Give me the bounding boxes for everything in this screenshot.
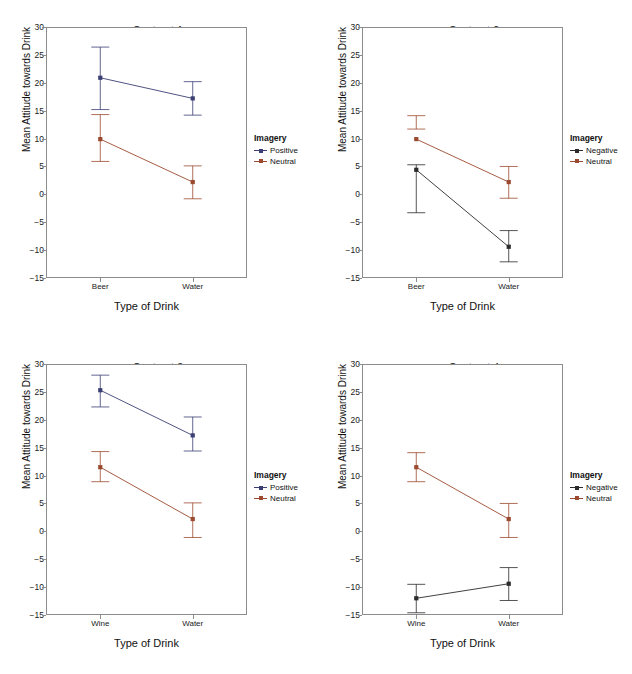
legend-marker-icon — [254, 147, 267, 154]
legend: ImageryNegativeNeutral — [570, 470, 618, 503]
legend-item[interactable]: Neutral — [254, 157, 298, 166]
y-tick-label: 0 — [330, 189, 360, 199]
data-point-marker — [507, 180, 511, 184]
data-point-marker — [98, 465, 102, 469]
series-line — [416, 170, 508, 247]
x-tick-mark — [509, 615, 510, 619]
figure-grid: Contrast 1Mean Attitude towards Drink302… — [0, 0, 632, 674]
y-tick-label: −15 — [330, 273, 360, 283]
x-tick-label: Beer — [408, 282, 425, 291]
y-axis-label: Mean Attitude towards Drink — [21, 10, 32, 170]
data-point-marker — [191, 180, 195, 184]
legend-item-label: Negative — [586, 146, 618, 155]
series-line — [100, 78, 192, 99]
series-layer — [46, 27, 247, 278]
series-line — [100, 139, 192, 182]
y-tick-label: −10 — [14, 245, 44, 255]
y-tick-label: 25 — [330, 50, 360, 60]
legend-item-label: Positive — [270, 483, 298, 492]
legend-marker-icon — [570, 147, 583, 154]
legend-item[interactable]: Negative — [570, 146, 618, 155]
series-line — [100, 390, 192, 435]
data-point-marker — [191, 96, 195, 100]
x-tick-mark — [416, 278, 417, 282]
legend-item-label: Neutral — [270, 157, 296, 166]
x-axis-label: Type of Drink — [46, 300, 247, 312]
y-tick-label: 5 — [330, 161, 360, 171]
legend-item[interactable]: Neutral — [570, 157, 618, 166]
chart-panel: Contrast 1Mean Attitude towards Drink302… — [0, 0, 316, 337]
x-tick-label: Beer — [92, 282, 109, 291]
legend: ImageryNegativeNeutral — [570, 133, 618, 166]
y-tick-label: 30 — [330, 359, 360, 369]
legend-marker-icon — [254, 158, 267, 165]
y-tick-mark — [42, 615, 46, 616]
series-layer — [362, 27, 563, 278]
y-tick-label: −15 — [14, 610, 44, 620]
y-tick-label: 20 — [14, 415, 44, 425]
y-tick-mark — [358, 278, 362, 279]
x-axis-label: Type of Drink — [362, 300, 563, 312]
legend-item[interactable]: Positive — [254, 146, 298, 155]
y-tick-label: 20 — [330, 78, 360, 88]
y-tick-label: 15 — [330, 106, 360, 116]
y-tick-label: 25 — [330, 387, 360, 397]
legend-item-label: Positive — [270, 146, 298, 155]
x-axis-label: Type of Drink — [362, 637, 563, 649]
series-layer — [46, 364, 247, 615]
data-point-marker — [414, 596, 418, 600]
x-tick-label: Water — [498, 619, 519, 628]
y-tick-mark — [358, 615, 362, 616]
chart-panel: Contrast 4Mean Attitude towards Drink302… — [316, 337, 632, 674]
data-point-marker — [507, 517, 511, 521]
y-tick-label: 10 — [14, 471, 44, 481]
y-axis-label: Mean Attitude towards Drink — [21, 347, 32, 507]
x-tick-mark — [193, 278, 194, 282]
y-tick-label: 25 — [14, 50, 44, 60]
x-tick-mark — [416, 615, 417, 619]
chart-panel: Contrast 3Mean Attitude towards Drink302… — [0, 337, 316, 674]
y-tick-label: −5 — [330, 217, 360, 227]
y-tick-label: 10 — [330, 134, 360, 144]
legend-title: Imagery — [570, 133, 618, 143]
y-tick-label: −10 — [330, 245, 360, 255]
legend-marker-icon — [254, 484, 267, 491]
legend-item-label: Neutral — [586, 157, 612, 166]
legend-item[interactable]: Positive — [254, 483, 298, 492]
y-tick-label: 0 — [14, 526, 44, 536]
data-point-marker — [414, 465, 418, 469]
x-tick-mark — [100, 615, 101, 619]
legend-item[interactable]: Neutral — [570, 494, 618, 503]
data-point-marker — [507, 245, 511, 249]
y-tick-label: 10 — [330, 471, 360, 481]
y-tick-label: 20 — [14, 78, 44, 88]
data-point-marker — [98, 388, 102, 392]
legend-marker-icon — [254, 495, 267, 502]
y-tick-label: 30 — [14, 359, 44, 369]
y-tick-label: −15 — [14, 273, 44, 283]
series-line — [416, 139, 508, 182]
legend-title: Imagery — [254, 133, 298, 143]
x-tick-label: Water — [182, 619, 203, 628]
y-tick-label: 0 — [330, 526, 360, 536]
data-point-marker — [98, 137, 102, 141]
y-tick-label: 5 — [330, 498, 360, 508]
x-tick-label: Wine — [407, 619, 425, 628]
legend-item[interactable]: Neutral — [254, 494, 298, 503]
data-point-marker — [191, 517, 195, 521]
x-tick-label: Water — [182, 282, 203, 291]
y-axis-label: Mean Attitude towards Drink — [337, 10, 348, 170]
y-tick-label: 10 — [14, 134, 44, 144]
y-tick-label: −10 — [14, 582, 44, 592]
y-axis-label: Mean Attitude towards Drink — [337, 347, 348, 507]
legend-item[interactable]: Negative — [570, 483, 618, 492]
y-tick-label: −15 — [330, 610, 360, 620]
y-tick-label: 25 — [14, 387, 44, 397]
series-line — [416, 467, 508, 519]
y-tick-label: 0 — [14, 189, 44, 199]
y-tick-label: −5 — [14, 217, 44, 227]
x-tick-mark — [193, 615, 194, 619]
legend-title: Imagery — [570, 470, 618, 480]
y-tick-label: 5 — [14, 498, 44, 508]
legend-marker-icon — [570, 484, 583, 491]
